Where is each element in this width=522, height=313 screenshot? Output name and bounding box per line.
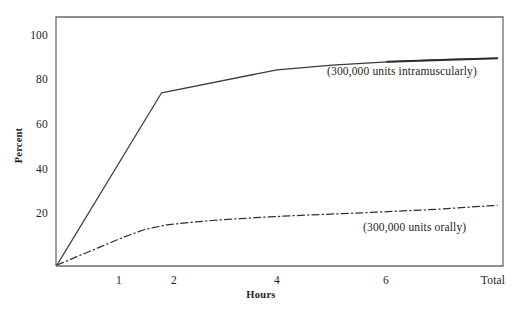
- x-tick-label-1: 1: [99, 274, 139, 286]
- series-line-intramuscular-tail: [387, 58, 497, 62]
- y-tick-label-80: 80: [14, 73, 48, 85]
- series-line-oral: [57, 205, 497, 265]
- y-axis-title: Percent: [13, 116, 24, 176]
- series-label-intramuscular: (300,000 units intramuscularly): [327, 65, 477, 77]
- x-tick-label-total: Total: [470, 274, 516, 286]
- x-tick-label-2: 2: [154, 274, 194, 286]
- chart-plot-area: [0, 0, 522, 313]
- y-tick-label-20: 20: [14, 207, 48, 219]
- figure-caption-partial: [0, 307, 522, 313]
- x-tick-label-4: 4: [257, 274, 297, 286]
- series-label-oral: (300,000 units orally): [363, 221, 466, 233]
- chart-figure: 100 80 60 40 20 1 2 4 6 Total Percent Ho…: [0, 0, 522, 313]
- series-line-intramuscular: [57, 58, 497, 265]
- y-tick-label-100: 100: [14, 29, 48, 41]
- x-axis-title: Hours: [0, 289, 522, 300]
- x-tick-label-6: 6: [366, 274, 406, 286]
